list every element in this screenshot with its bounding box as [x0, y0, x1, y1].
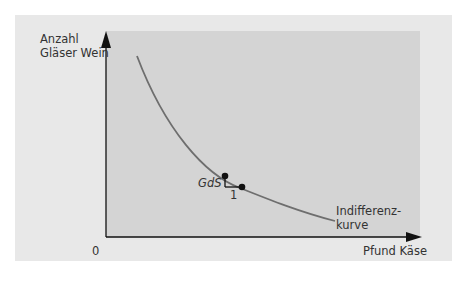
curve-label-line2: kurve	[336, 218, 368, 233]
y-axis-label-line2: Gläser Wein	[40, 46, 109, 61]
run-label: 1	[230, 188, 237, 203]
curve-point-b	[239, 184, 246, 191]
origin-label: 0	[92, 244, 99, 259]
slope-label: GdS	[198, 176, 222, 191]
x-axis-label: Pfund Käse	[363, 244, 427, 259]
curve-label-line1: Indifferenz-	[336, 204, 401, 219]
curve-point-a	[222, 173, 229, 180]
y-axis-label-line1: Anzahl	[40, 32, 79, 47]
x-axis-arrow-icon	[406, 232, 422, 242]
